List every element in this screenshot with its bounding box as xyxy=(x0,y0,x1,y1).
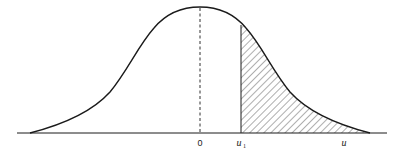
normal-curve-diagram: 0 u 1 u xyxy=(0,0,403,154)
origin-label: 0 xyxy=(197,138,202,148)
u1-label: u xyxy=(237,137,242,148)
shaded-tail-region xyxy=(200,0,370,133)
u1-subscript: 1 xyxy=(243,143,246,149)
u-label: u xyxy=(342,137,347,148)
